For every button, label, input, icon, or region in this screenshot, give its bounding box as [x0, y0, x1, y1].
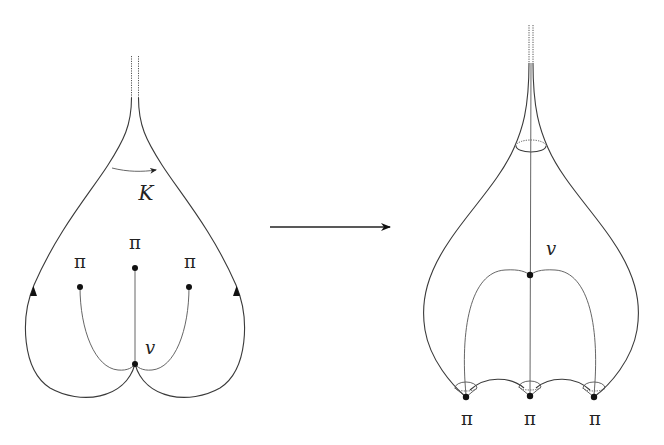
vertex-v-left: [132, 361, 138, 367]
left-figure: K π π π v: [26, 56, 245, 397]
cone-point-center: [132, 265, 138, 271]
cone-label-right-fig-left: π: [461, 408, 473, 429]
right-center-edge: [530, 63, 531, 396]
cone-point-right: [186, 284, 192, 290]
cone-label-right-fig-right: π: [589, 408, 601, 429]
region-label-k: K: [138, 181, 155, 205]
cone-label-center: π: [129, 232, 141, 253]
right-inner-edge: [135, 287, 189, 370]
cone-point-right-fig-center: [527, 393, 533, 399]
cone-label-right-fig-center: π: [524, 408, 536, 429]
right-lobe-arrow-icon: [233, 286, 240, 296]
cone-point-right-fig-left: [463, 394, 469, 400]
vertex-label-v-right: v: [546, 238, 556, 259]
vertex-label-v-left: v: [145, 337, 155, 358]
diagram-canvas: K π π π v: [0, 0, 664, 445]
right-figure: v π π π: [424, 25, 639, 429]
vertex-v-right: [527, 272, 533, 278]
cone-point-left: [77, 284, 83, 290]
rotation-arrow-icon: [112, 168, 156, 171]
cone-label-left: π: [74, 251, 86, 272]
cone-label-right: π: [184, 251, 196, 272]
cone-point-right-fig-right: [591, 394, 597, 400]
left-inner-edge: [80, 287, 135, 370]
left-lobe-arrow-icon: [30, 286, 37, 296]
